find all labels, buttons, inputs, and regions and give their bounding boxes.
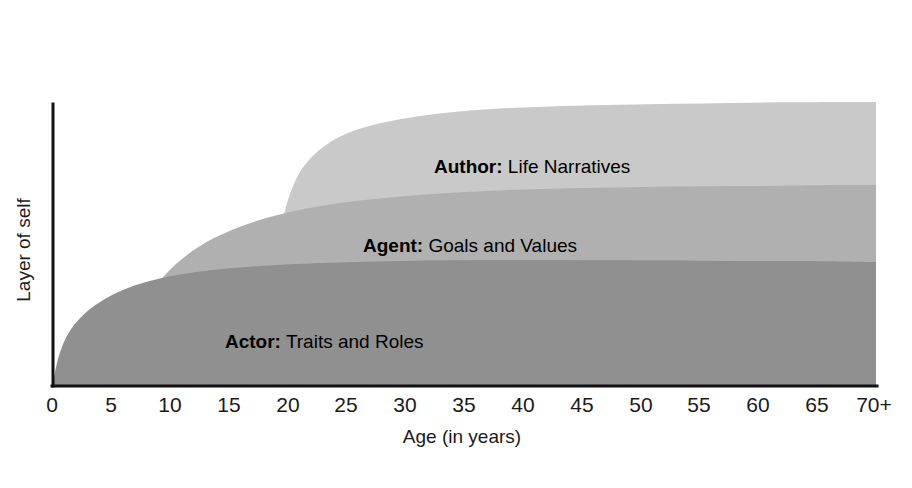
x-tick-55: 55 <box>687 393 710 416</box>
series-label-actor-lead: Actor: <box>225 331 281 352</box>
area-band-actor <box>53 260 876 385</box>
x-tick-65: 65 <box>805 393 828 416</box>
series-label-agent-lead: Agent: <box>363 235 423 256</box>
series-label-actor: Actor: Traits and Roles <box>225 331 424 352</box>
chart-container: Layer of self Age (in years) 0 5 10 15 2… <box>0 0 912 488</box>
series-label-author-lead: Author: <box>434 156 503 177</box>
series-label-agent-rest: Goals and Values <box>423 235 577 256</box>
x-tick-0: 0 <box>46 393 58 416</box>
x-tick-40: 40 <box>511 393 534 416</box>
x-tick-25: 25 <box>334 393 357 416</box>
x-tick-20: 20 <box>276 393 299 416</box>
x-tick-30: 30 <box>393 393 416 416</box>
layers-of-self-area-chart: Layer of self Age (in years) 0 5 10 15 2… <box>0 0 912 488</box>
series-label-agent: Agent: Goals and Values <box>363 235 577 256</box>
x-tick-5: 5 <box>105 393 117 416</box>
x-axis-tick-labels: 0 5 10 15 20 25 30 35 40 45 50 55 60 65 … <box>46 393 892 416</box>
series-label-actor-rest: Traits and Roles <box>281 331 424 352</box>
series-label-author-rest: Life Narratives <box>503 156 631 177</box>
series-label-author: Author: Life Narratives <box>434 156 630 177</box>
x-tick-50: 50 <box>629 393 652 416</box>
x-tick-70plus: 70+ <box>856 393 892 416</box>
x-tick-60: 60 <box>746 393 769 416</box>
x-tick-45: 45 <box>570 393 593 416</box>
x-tick-10: 10 <box>158 393 181 416</box>
x-tick-35: 35 <box>452 393 475 416</box>
x-tick-15: 15 <box>217 393 240 416</box>
x-axis-title: Age (in years) <box>403 426 521 447</box>
y-axis-title: Layer of self <box>13 198 34 302</box>
